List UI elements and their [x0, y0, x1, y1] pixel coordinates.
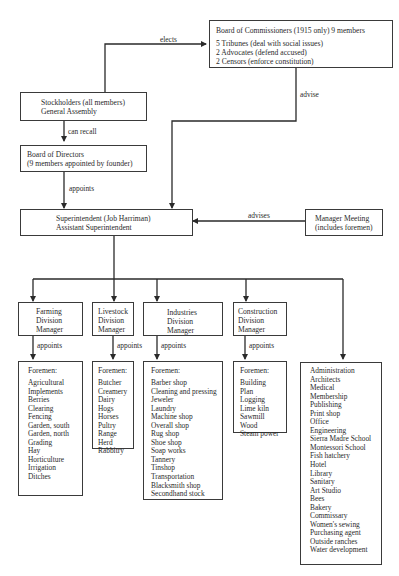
- manager-meeting-box: Manager Meeting (includes foremen): [305, 209, 383, 236]
- manager-meeting-line1: Manager Meeting: [315, 214, 369, 223]
- label-appoints-livestock: appoints: [117, 341, 142, 350]
- farming-foremen-list: Agricultural Implements Berries Clearing…: [28, 379, 69, 482]
- division-name-line: Manager: [238, 325, 265, 334]
- foremen-title: Foremen:: [98, 366, 127, 375]
- division-name-line: Division: [98, 316, 124, 325]
- division-name-line: Livestock: [98, 307, 128, 316]
- commissioners-tribunes: 5 Tribunes (deal with social issues): [216, 39, 323, 48]
- division-name-line: Manager: [36, 325, 63, 334]
- division-name-line: Manager: [98, 325, 125, 334]
- foreman-item: Ditches: [28, 473, 69, 482]
- stockholders-line1: Stockholders (all members): [41, 98, 125, 107]
- division-name-line: Construction: [238, 307, 277, 316]
- construction-division-box: Construction Division Manager: [233, 302, 287, 336]
- farming-foremen-box: Foremen: Agricultural Implements Berries…: [18, 361, 83, 496]
- construction-foremen-box: Foremen: Building Plan Logging Lime kiln…: [233, 361, 287, 433]
- board-of-directors-line1: Board of Directors: [27, 150, 84, 159]
- livestock-division-box: Livestock Division Manager: [92, 302, 134, 336]
- foremen-title: Foremen:: [28, 366, 57, 375]
- label-appoints-construction: appoints: [249, 341, 274, 350]
- industries-foremen-list: Barber shop Cleaning and pressing Jewele…: [151, 379, 217, 499]
- foreman-item: Steam power: [240, 430, 279, 439]
- board-of-directors-line2: (9 members appointed by founder): [27, 159, 132, 168]
- superintendent-line1: Superintendent (Job Harriman): [56, 214, 150, 223]
- manager-meeting-line2: (includes foremen): [315, 223, 373, 232]
- division-name-line: Manager: [167, 326, 194, 335]
- division-name-line: Industries: [167, 308, 197, 317]
- label-appoints-industries: appoints: [161, 341, 186, 350]
- construction-foremen-list: Building Plan Logging Lime kiln Sawmill …: [240, 379, 279, 439]
- stockholders-box: Stockholders (all members) General Assem…: [20, 92, 147, 121]
- industries-foremen-box: Foremen: Barber shop Cleaning and pressi…: [143, 361, 223, 500]
- label-advise: advise: [300, 90, 319, 99]
- label-appoints-farming: appoints: [37, 341, 62, 350]
- livestock-foremen-box: Foremen: Butcher Creamery Dairy Hogs Hor…: [92, 361, 134, 449]
- commissioners-advocates: 2 Advocates (defend accused): [216, 48, 307, 57]
- label-elects: elects: [160, 35, 177, 44]
- stockholders-line2: General Assembly: [41, 107, 97, 116]
- board-of-directors-box: Board of Directors (9 members appointed …: [20, 145, 147, 172]
- foremen-title: Foremen:: [151, 366, 180, 375]
- commissioners-censors: 2 Censors (enforce constitution): [216, 57, 314, 66]
- division-name-line: Division: [167, 317, 193, 326]
- label-advises: advises: [248, 211, 270, 220]
- superintendent-line2: Assistant Superintendent: [56, 223, 132, 232]
- board-of-commissioners-box: Board of Commissioners (1915 only) 9 mem…: [209, 20, 393, 68]
- farming-division-box: Farming Division Manager: [18, 302, 83, 336]
- foreman-item: Secondhand stock: [151, 490, 217, 499]
- label-can-recall: can recall: [68, 127, 97, 136]
- administration-box: Administration Architects Medical Member…: [300, 362, 382, 565]
- administration-list: Administration Architects Medical Member…: [310, 367, 371, 555]
- division-name-line: Division: [238, 316, 264, 325]
- label-appoints-superintendent: appoints: [69, 184, 94, 193]
- superintendent-box: Superintendent (Job Harriman) Assistant …: [20, 209, 193, 236]
- industries-division-box: Industries Division Manager: [143, 302, 223, 336]
- admin-item: Water development: [310, 546, 371, 555]
- division-name-line: Farming: [36, 307, 62, 316]
- livestock-foremen-list: Butcher Creamery Dairy Hogs Horses Pultr…: [98, 379, 127, 456]
- foremen-title: Foremen:: [240, 366, 269, 375]
- division-name-line: Division: [36, 316, 62, 325]
- board-of-commissioners-title: Board of Commissioners (1915 only) 9 mem…: [216, 26, 365, 35]
- foreman-item: Rabbitry: [98, 447, 127, 456]
